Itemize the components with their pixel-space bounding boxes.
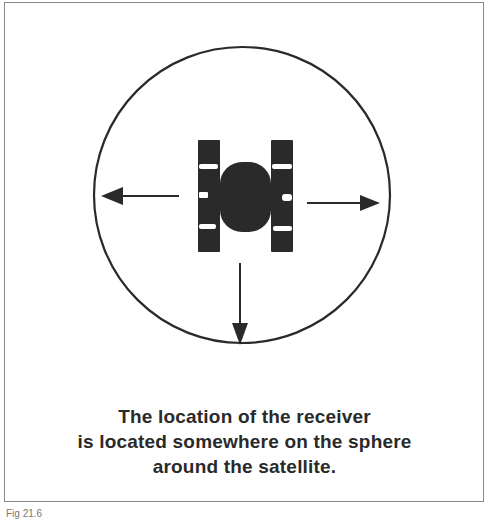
arrow-down-icon — [232, 263, 248, 345]
figure-caption: The location of the receiver is located … — [0, 404, 489, 479]
caption-line-2: is located somewhere on the sphere — [0, 429, 489, 454]
caption-line-1: The location of the receiver — [0, 404, 489, 429]
satellite-icon — [198, 140, 293, 252]
figure-number-label: Fig 21.6 — [6, 508, 42, 519]
arrow-left-icon — [101, 187, 179, 205]
arrow-right-icon — [307, 195, 380, 211]
caption-line-3: around the satellite. — [0, 454, 489, 479]
